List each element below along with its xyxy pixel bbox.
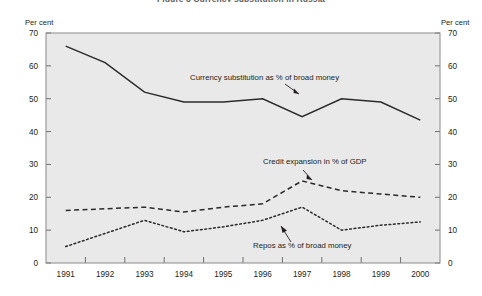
y-axis-label: 40 xyxy=(448,128,458,137)
figure-container: Figure 3 Currency substitution in Russia… xyxy=(0,0,482,296)
x-axis-label: 1995 xyxy=(214,270,233,279)
x-axis-label: 1997 xyxy=(293,270,312,279)
x-axis-label: 1991 xyxy=(57,270,76,279)
y-axis-labels-left: 010203040506070 xyxy=(29,29,39,268)
y-axis-label: 50 xyxy=(29,95,39,104)
y-axis-label: 30 xyxy=(448,160,458,169)
x-axis-label: 1998 xyxy=(332,270,351,279)
y-axis-label: 50 xyxy=(448,95,458,104)
y-axis-label: 30 xyxy=(29,160,39,169)
y-axis-label: 0 xyxy=(33,259,38,268)
x-axis-label: 1999 xyxy=(372,270,391,279)
x-axis-labels: 1991199219931994199519961997199819992000 xyxy=(57,270,430,279)
y-axis-label: 0 xyxy=(448,259,453,268)
x-axis-label: 1992 xyxy=(96,270,115,279)
x-axis-label: 1996 xyxy=(254,270,273,279)
y-axis-label: 60 xyxy=(29,62,39,71)
y-axis-label: 60 xyxy=(448,62,458,71)
x-axis-label: 1994 xyxy=(175,270,194,279)
y-axis-label: 40 xyxy=(29,128,39,137)
svg-text:Repos as % of broad money: Repos as % of broad money xyxy=(253,241,351,250)
svg-text:Currency substitution as % of: Currency substitution as % of broad mone… xyxy=(190,73,339,82)
x-axis-label: 1993 xyxy=(135,270,154,279)
y-axis-label: 70 xyxy=(448,29,458,38)
y-axis-label: 20 xyxy=(448,193,458,202)
x-axis-label: 2000 xyxy=(411,270,430,279)
svg-text:Credit expansion in % of GDP: Credit expansion in % of GDP xyxy=(263,157,367,166)
plot-background xyxy=(46,33,440,263)
y-axis-label: 10 xyxy=(29,226,39,235)
y-axis-label: 20 xyxy=(29,193,39,202)
y-axis-label: 10 xyxy=(448,226,458,235)
y-axis-label: 70 xyxy=(29,29,39,38)
line-chart: 010203040506070 010203040506070 19911992… xyxy=(0,0,482,296)
y-axis-labels-right: 010203040506070 xyxy=(448,29,458,268)
